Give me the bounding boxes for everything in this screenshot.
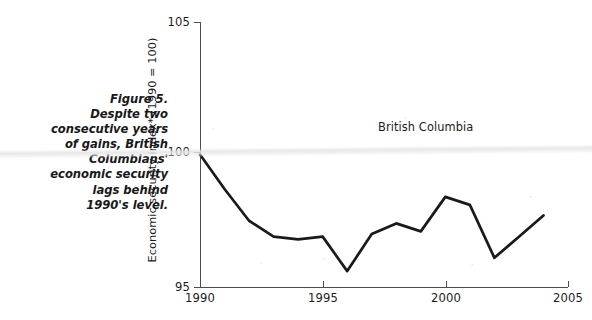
chart-plot-area: 105 100 95 1990 1995 2000 2005 British C…: [0, 0, 592, 320]
series-svg: [0, 0, 592, 320]
series-annotation-british-columbia: British Columbia: [378, 120, 473, 134]
series-line-british-columbia: [200, 155, 543, 272]
